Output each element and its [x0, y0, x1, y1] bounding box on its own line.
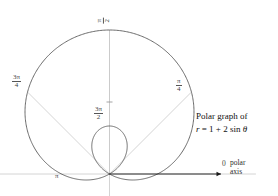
polar-axis-arrow-head: [217, 172, 222, 176]
angle-label-pi-over-4: π 4: [176, 78, 182, 94]
angle-label-pi: π: [55, 173, 59, 180]
angle-label-zero: 0: [222, 160, 226, 168]
polar-axis-text: polar axis: [230, 159, 245, 176]
angle-label-pi-over-2: π 2: [96, 18, 112, 24]
polar-axis-word-axis: axis: [230, 168, 245, 177]
polar-axis-arrow: [110, 172, 222, 176]
equation-variable-theta: θ: [243, 124, 247, 134]
pi-over-4-denominator: 4: [176, 86, 182, 93]
three-pi-over-4-denominator: 4: [12, 82, 21, 89]
radial-axis-45: [110, 92, 192, 174]
figure-caption: Polar graph of r = 1 + 2 sin θ: [196, 110, 248, 136]
three-pi-over-2-denominator: 2: [94, 114, 103, 121]
angle-label-three-pi-over-2: 3π 2: [94, 106, 103, 122]
pi-over-2-denominator: 2: [104, 18, 111, 24]
equation-body: = 1 + 2 sin: [200, 124, 243, 134]
angle-label-three-pi-over-4: 3π 4: [12, 74, 21, 90]
caption-line-1: Polar graph of: [196, 111, 248, 121]
caption-equation: r = 1 + 2 sin θ: [196, 123, 248, 136]
